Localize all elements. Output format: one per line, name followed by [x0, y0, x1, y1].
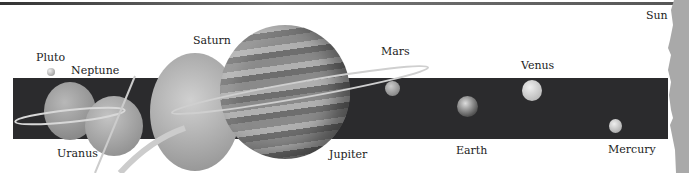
planet-mars: [385, 81, 400, 96]
label-mars: Mars: [381, 45, 410, 58]
label-earth: Earth: [456, 144, 487, 157]
label-venus: Venus: [521, 59, 554, 72]
label-mercury: Mercury: [608, 143, 656, 156]
planet-rings: [0, 0, 689, 173]
planet-venus: [522, 80, 542, 101]
planet-mercury: [609, 119, 622, 133]
planet-earth: [457, 96, 478, 117]
